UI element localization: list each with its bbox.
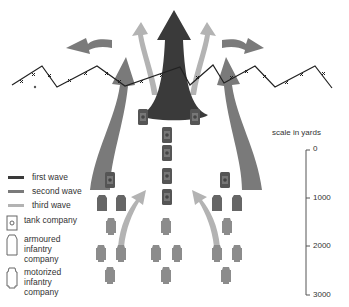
scale-bar — [306, 150, 310, 295]
legend-item-first-wave: first wave — [0, 170, 110, 184]
tank-companies — [105, 109, 230, 205]
legend-item-armoured-infantry: armoured infantry company — [0, 234, 110, 264]
motorized-infantry-company-icon — [6, 267, 18, 289]
second-wave-swatch — [8, 190, 24, 193]
first-wave-swatch — [8, 176, 24, 179]
legend-item-tank-company: tank company — [0, 215, 110, 231]
legend-label: motorized — [24, 267, 61, 277]
scale-tick-0: 0 — [313, 144, 317, 153]
scale-tick-1000: 1000 — [313, 193, 331, 202]
legend-label: tank company — [24, 215, 77, 225]
third-wave-swatch — [8, 204, 24, 207]
legend: first wave second wave third wave tank c… — [0, 170, 110, 297]
legend-label: first wave — [32, 172, 68, 182]
scale-tick-2000: 2000 — [313, 241, 331, 250]
legend-label: third wave — [32, 200, 71, 210]
scale-title: scale in yards — [272, 128, 321, 137]
scale-tick-3000: 3000 — [313, 290, 331, 299]
legend-item-second-wave: second wave — [0, 184, 110, 198]
motorized-infantry-companies — [96, 218, 242, 284]
legend-item-third-wave: third wave — [0, 198, 110, 212]
legend-label: infantry — [24, 277, 61, 287]
tank-company-icon — [6, 215, 18, 231]
legend-item-motorized-infantry: motorized infantry company — [0, 267, 110, 297]
legend-label: infantry — [24, 244, 60, 254]
legend-label: company — [24, 254, 60, 264]
legend-label: armoured — [24, 234, 60, 244]
legend-label: second wave — [32, 186, 82, 196]
legend-label: company — [24, 287, 61, 297]
armoured-infantry-company-icon — [6, 234, 18, 256]
